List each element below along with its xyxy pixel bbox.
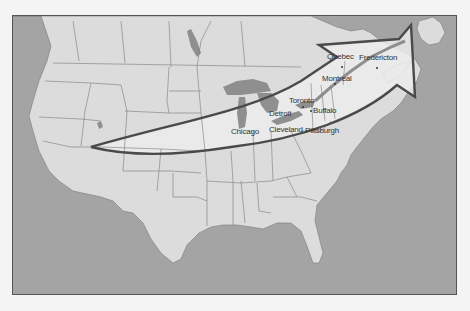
map-frame: Quebec Fredericton Montreal Toronto Buff…	[12, 15, 457, 295]
city-name: Chicago	[231, 127, 259, 136]
city-dot	[302, 106, 304, 108]
city-dot	[376, 67, 378, 69]
newfoundland	[417, 17, 445, 45]
city-name: Buffalo	[313, 106, 336, 115]
city-name: Quebec	[327, 52, 354, 61]
city-name: Toronto	[289, 96, 314, 105]
city-name: Cleveland	[269, 125, 303, 134]
city-name: Montreal	[322, 74, 352, 83]
city-name: Fredericton	[359, 53, 397, 62]
city-name: Detroit	[269, 109, 291, 118]
city-dot	[341, 66, 343, 68]
city-dot	[310, 110, 312, 112]
city-dot	[334, 83, 336, 85]
city-name: Pittsburgh	[305, 126, 339, 135]
